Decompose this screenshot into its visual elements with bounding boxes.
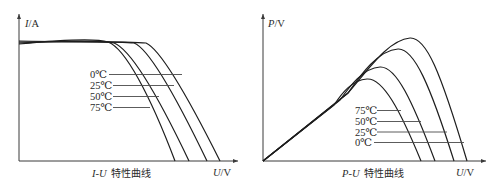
- pu-label-50c: 50℃: [355, 116, 378, 127]
- iu-label-25c: 25℃: [90, 80, 113, 91]
- iu-label-0c: 0℃: [90, 69, 107, 80]
- figure-canvas: I/A U/V I-U特性曲线 0℃ 25℃ 50℃ 75℃ P/V U/V P…: [0, 0, 492, 192]
- iu-y-axis-label: I/A: [24, 18, 39, 29]
- iu-caption: I-U特性曲线: [91, 167, 151, 179]
- pu-x-axis-label: U/V: [456, 167, 475, 178]
- pu-caption: P-U特性曲线: [341, 167, 404, 179]
- iu-curve-25c: [19, 42, 207, 161]
- pu-label-0c: 0℃: [355, 137, 372, 148]
- iu-curve-0c: [19, 41, 220, 161]
- pu-chart: P/V U/V P-U特性曲线 75℃ 50℃ 25℃ 0℃: [263, 14, 486, 179]
- pu-curve-50c: [263, 67, 435, 161]
- iu-x-axis-label: U/V: [213, 167, 232, 178]
- iu-label-75c: 75℃: [90, 102, 113, 113]
- iu-label-50c: 50℃: [90, 91, 113, 102]
- iu-chart: I/A U/V I-U特性曲线 0℃ 25℃ 50℃ 75℃: [19, 14, 238, 179]
- pu-label-75c: 75℃: [355, 105, 378, 116]
- pu-curve-75c: [263, 79, 421, 161]
- pu-y-axis-label: P/V: [267, 18, 285, 29]
